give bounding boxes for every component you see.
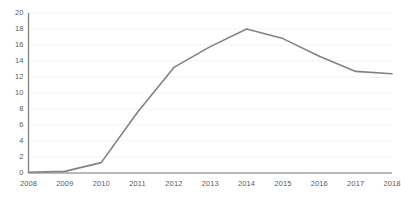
x-tick-label: 2014	[238, 180, 255, 188]
x-tick-label: 2013	[202, 180, 219, 188]
y-tick-label: 16	[0, 41, 24, 49]
x-tick-label: 2018	[383, 180, 400, 188]
x-tick-label: 2016	[311, 180, 328, 188]
y-tick-label: 4	[0, 137, 24, 145]
data-series	[29, 29, 393, 172]
series-line-1	[29, 29, 393, 172]
x-tick-label: 2009	[56, 180, 73, 188]
x-tick-label: 2017	[347, 180, 364, 188]
y-tick-label: 18	[0, 25, 24, 33]
x-tick-label: 2011	[129, 180, 146, 188]
y-tick-label: 0	[0, 169, 24, 177]
x-tick-label: 2008	[20, 180, 37, 188]
x-tick-label: 2015	[274, 180, 291, 188]
y-tick-label: 20	[0, 9, 24, 17]
y-tick-label: 14	[0, 57, 24, 65]
y-tick-label: 6	[0, 121, 24, 129]
y-tick-label: 10	[0, 89, 24, 97]
y-tick-label: 2	[0, 153, 24, 161]
y-tick-label: 8	[0, 105, 24, 113]
x-tick-label: 2012	[165, 180, 182, 188]
y-tick-label: 12	[0, 73, 24, 81]
x-tick-label: 2010	[93, 180, 110, 188]
gridlines	[29, 13, 393, 173]
